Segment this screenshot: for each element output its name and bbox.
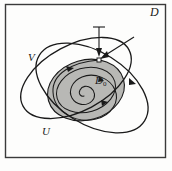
label-d0-base: D	[95, 74, 103, 86]
label-ellipse-v: V	[28, 52, 35, 63]
convergence-point-marker	[97, 58, 101, 62]
label-inner-region-d0: D0	[95, 75, 106, 86]
caption-strip	[0, 161, 172, 171]
diagram-canvas	[0, 0, 172, 171]
label-outer-region-d: D	[150, 6, 159, 18]
label-d0-subscript: 0	[103, 80, 107, 88]
figure-container: D V U D0	[0, 0, 172, 171]
label-ellipse-u: U	[42, 126, 50, 137]
